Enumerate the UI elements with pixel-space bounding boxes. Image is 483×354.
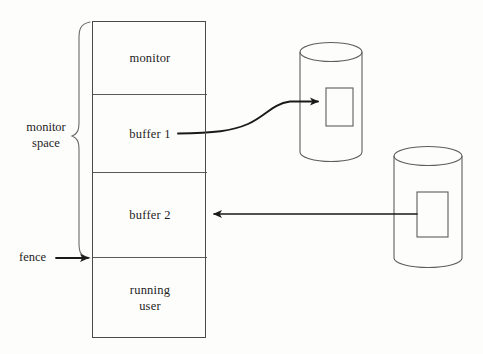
memory-cell-monitor-label: monitor — [130, 50, 171, 66]
diagram-canvas: monitor buffer 1 buffer 2 running user m… — [0, 0, 483, 354]
memory-cell-buffer2[interactable]: buffer 2 — [93, 173, 207, 258]
memory-cell-running-user-label: running user — [130, 282, 170, 314]
vector-layer — [0, 0, 483, 354]
monitor-space-label: monitor space — [10, 119, 82, 152]
memory-block: monitor buffer 1 buffer 2 running user — [92, 21, 206, 338]
fence-label: fence — [19, 249, 65, 265]
memory-cell-buffer1-label: buffer 1 — [129, 126, 170, 142]
disk-1-block — [326, 88, 353, 126]
memory-cell-buffer1[interactable]: buffer 1 — [93, 95, 207, 173]
disk-cylinder-2[interactable] — [394, 147, 462, 268]
memory-cell-monitor[interactable]: monitor — [93, 22, 207, 95]
memory-cell-buffer2-label: buffer 2 — [129, 207, 170, 223]
disk-2-block — [417, 192, 448, 237]
disk-cylinder-1[interactable] — [300, 43, 362, 162]
memory-cell-running-user[interactable]: running user — [93, 258, 207, 337]
